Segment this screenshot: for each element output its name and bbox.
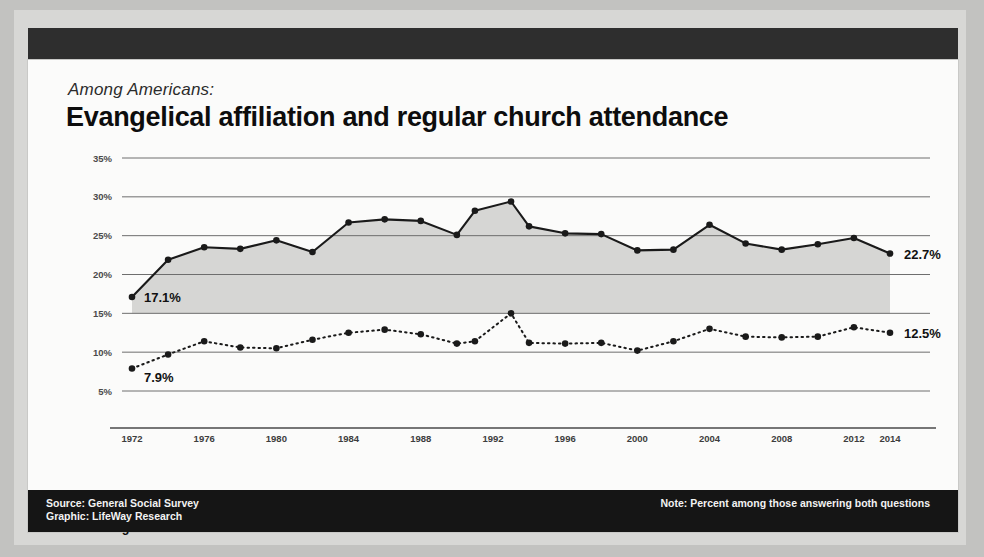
data-point xyxy=(129,294,136,301)
data-point xyxy=(598,340,605,347)
data-point xyxy=(381,216,388,223)
data-point xyxy=(309,249,316,256)
x-axis-tick-label: 1976 xyxy=(194,433,215,444)
data-point xyxy=(851,235,858,242)
data-point xyxy=(345,329,352,336)
y-axis-tick-label: 25% xyxy=(93,230,113,241)
x-axis-tick-label: 1972 xyxy=(121,433,142,444)
data-point xyxy=(273,237,280,244)
footer-bar: Source: General Social Survey Graphic: L… xyxy=(28,490,958,532)
chart-area: 5%10%15%20%25%30%35%19721976198019841988… xyxy=(28,146,958,446)
data-point xyxy=(598,231,605,238)
y-axis-tick-label: 35% xyxy=(93,153,113,164)
data-point xyxy=(417,218,424,225)
y-axis-tick-label: 15% xyxy=(93,308,113,319)
line-chart: 5%10%15%20%25%30%35%19721976198019841988… xyxy=(28,146,958,446)
data-point xyxy=(454,340,461,347)
top-dark-band xyxy=(28,28,958,60)
point-annotation: 12.5% xyxy=(904,326,941,341)
screenshot-root: Among Americans: Evangelical affiliation… xyxy=(0,0,984,557)
footer-note: Note: Percent among those answering both… xyxy=(660,497,930,509)
data-point xyxy=(526,223,533,230)
data-point xyxy=(634,347,641,354)
data-point xyxy=(508,310,515,317)
data-point xyxy=(562,340,569,347)
data-point xyxy=(454,232,461,239)
data-point xyxy=(562,230,569,237)
series-line-attendees xyxy=(132,313,890,368)
x-axis-tick-label: 1980 xyxy=(266,433,287,444)
chart-area-fill xyxy=(132,201,890,313)
data-point xyxy=(129,365,136,372)
data-point xyxy=(742,333,749,340)
footer-source-block: Source: General Social Survey Graphic: L… xyxy=(46,497,199,523)
footer-source: Source: General Social Survey xyxy=(46,497,199,510)
x-axis-tick-label: 2012 xyxy=(843,433,864,444)
point-annotation: 22.7% xyxy=(904,247,941,262)
data-point xyxy=(508,198,515,205)
data-point xyxy=(851,324,858,331)
data-point xyxy=(472,208,479,215)
data-point xyxy=(237,344,244,351)
data-point xyxy=(526,340,533,347)
y-axis-tick-label: 5% xyxy=(98,386,112,397)
y-axis-tick-label: 10% xyxy=(93,347,113,358)
y-axis-tick-label: 20% xyxy=(93,269,113,280)
data-point xyxy=(201,244,208,251)
x-axis-tick-label: 2000 xyxy=(627,433,648,444)
data-point xyxy=(165,256,172,263)
y-axis-tick-label: 30% xyxy=(93,191,113,202)
data-point xyxy=(706,221,713,228)
footer-graphic: Graphic: LifeWay Research xyxy=(46,510,199,523)
kicker-text: Among Americans: xyxy=(68,80,214,100)
data-point xyxy=(165,351,172,358)
data-point xyxy=(778,246,785,253)
data-point xyxy=(345,219,352,226)
data-point xyxy=(742,240,749,247)
x-axis-tick-label: 1988 xyxy=(410,433,431,444)
point-annotation: 7.9% xyxy=(144,370,174,385)
data-point xyxy=(417,331,424,338)
infographic-card: Among Americans: Evangelical affiliation… xyxy=(28,60,958,532)
data-point xyxy=(273,345,280,352)
data-point xyxy=(237,246,244,253)
data-point xyxy=(815,333,822,340)
data-point xyxy=(887,250,894,257)
data-point xyxy=(670,338,677,345)
data-point xyxy=(634,247,641,254)
x-axis-tick-label: 1984 xyxy=(338,433,360,444)
x-axis-tick-label: 2014 xyxy=(879,433,901,444)
x-axis-tick-label: 1992 xyxy=(482,433,503,444)
data-point xyxy=(778,334,785,341)
data-point xyxy=(815,241,822,248)
data-point xyxy=(670,246,677,253)
x-axis-tick-label: 1996 xyxy=(555,433,576,444)
data-point xyxy=(381,326,388,333)
x-axis-tick-label: 2004 xyxy=(699,433,721,444)
data-point xyxy=(472,338,479,345)
x-axis-tick-label: 2008 xyxy=(771,433,792,444)
page-title: Evangelical affiliation and regular chur… xyxy=(66,102,728,133)
data-point xyxy=(706,326,713,333)
point-annotation: 17.1% xyxy=(144,290,181,305)
data-point xyxy=(309,336,316,343)
data-point xyxy=(201,338,208,345)
data-point xyxy=(887,329,894,336)
